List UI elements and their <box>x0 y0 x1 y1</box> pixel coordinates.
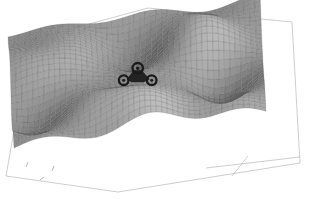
surface-plot-figure <box>0 0 311 199</box>
surface-plot-canvas <box>0 0 311 199</box>
